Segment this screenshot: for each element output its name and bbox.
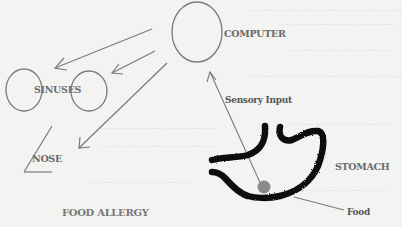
arrow-computer-to-sinus-left [55, 29, 152, 70]
food-dot [258, 181, 271, 194]
sinuses-label: SINUSES [34, 84, 81, 95]
sensory-input-label: Sensory Input [225, 95, 292, 105]
nose-shape [24, 126, 52, 172]
nose-label: NOSE [32, 153, 62, 164]
computer-circle [172, 2, 222, 62]
stomach-label: STOMACH [335, 161, 390, 172]
diagram-title: FOOD ALLERGY [62, 207, 149, 218]
arrow-computer-to-sinus-right [112, 51, 155, 74]
arrow-computer-to-nose [79, 63, 167, 148]
computer-label: COMPUTER [224, 28, 286, 39]
food-label: Food [347, 207, 370, 217]
food-pointer-line [294, 197, 344, 210]
